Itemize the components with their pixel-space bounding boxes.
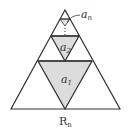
caption: Rn <box>59 116 72 129</box>
label-a2: a2 <box>60 42 71 55</box>
label-a2-sub: 2 <box>67 47 71 55</box>
label-a1: a1 <box>61 74 72 87</box>
label-an-sub: n <box>88 14 93 22</box>
triangle-diagram <box>0 0 130 133</box>
label-a1-sub: 1 <box>68 79 72 87</box>
label-an: an <box>81 9 92 22</box>
caption-sub: n <box>67 121 72 129</box>
